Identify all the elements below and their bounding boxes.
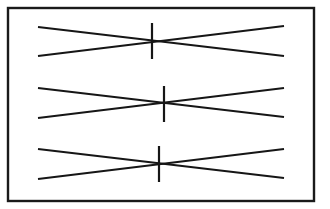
figure-canvas (0, 0, 330, 209)
outer-border (8, 8, 314, 201)
illusion-figure (0, 0, 330, 209)
